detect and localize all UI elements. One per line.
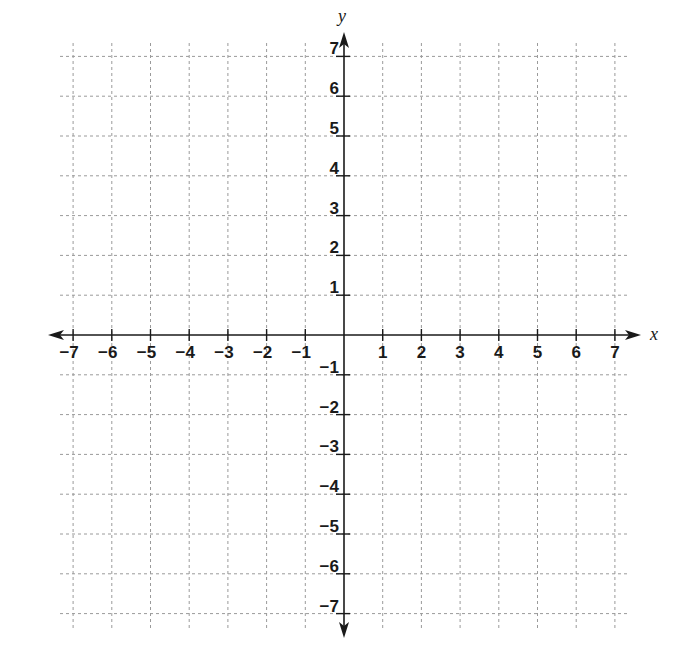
x-tick-label: −6 (98, 343, 117, 362)
y-tick-label: −2 (320, 398, 339, 417)
axes (48, 32, 641, 638)
x-tick-label: 5 (533, 343, 542, 362)
x-tick-label: −1 (292, 343, 311, 362)
x-tick-label: −2 (253, 343, 272, 362)
x-tick-label: 2 (417, 343, 426, 362)
y-axis-label: y (336, 6, 346, 26)
x-tick-label: −3 (214, 343, 233, 362)
x-tick-label: −7 (59, 343, 78, 362)
y-tick-label: 3 (330, 199, 339, 218)
y-tick-label: 7 (330, 39, 339, 58)
y-tick-label: 5 (330, 119, 339, 138)
y-tick-label: 2 (330, 238, 339, 257)
x-axis-ticks: −7−6−5−4−3−2−11234567 (59, 329, 619, 362)
x-tick-label: 3 (455, 343, 464, 362)
y-axis-ticks: −7−6−5−4−3−2−11234567 (320, 39, 350, 615)
x-tick-label: −5 (137, 343, 156, 362)
x-tick-label: 4 (494, 343, 504, 362)
y-tick-label: −3 (320, 437, 339, 456)
x-tick-label: 1 (378, 343, 387, 362)
y-tick-label: 4 (330, 159, 340, 178)
y-tick-label: 1 (330, 278, 339, 297)
y-tick-label: −7 (320, 597, 339, 616)
coordinate-plane: −7−6−5−4−3−2−11234567 −7−6−5−4−3−2−11234… (0, 0, 693, 666)
y-tick-label: −1 (320, 358, 339, 377)
x-tick-label: 7 (610, 343, 619, 362)
y-tick-label: −4 (320, 477, 340, 496)
x-tick-label: −4 (176, 343, 196, 362)
x-tick-label: 6 (571, 343, 580, 362)
y-tick-label: −5 (320, 517, 339, 536)
y-tick-label: −6 (320, 557, 339, 576)
x-axis-label: x (649, 324, 658, 344)
y-tick-label: 6 (330, 79, 339, 98)
